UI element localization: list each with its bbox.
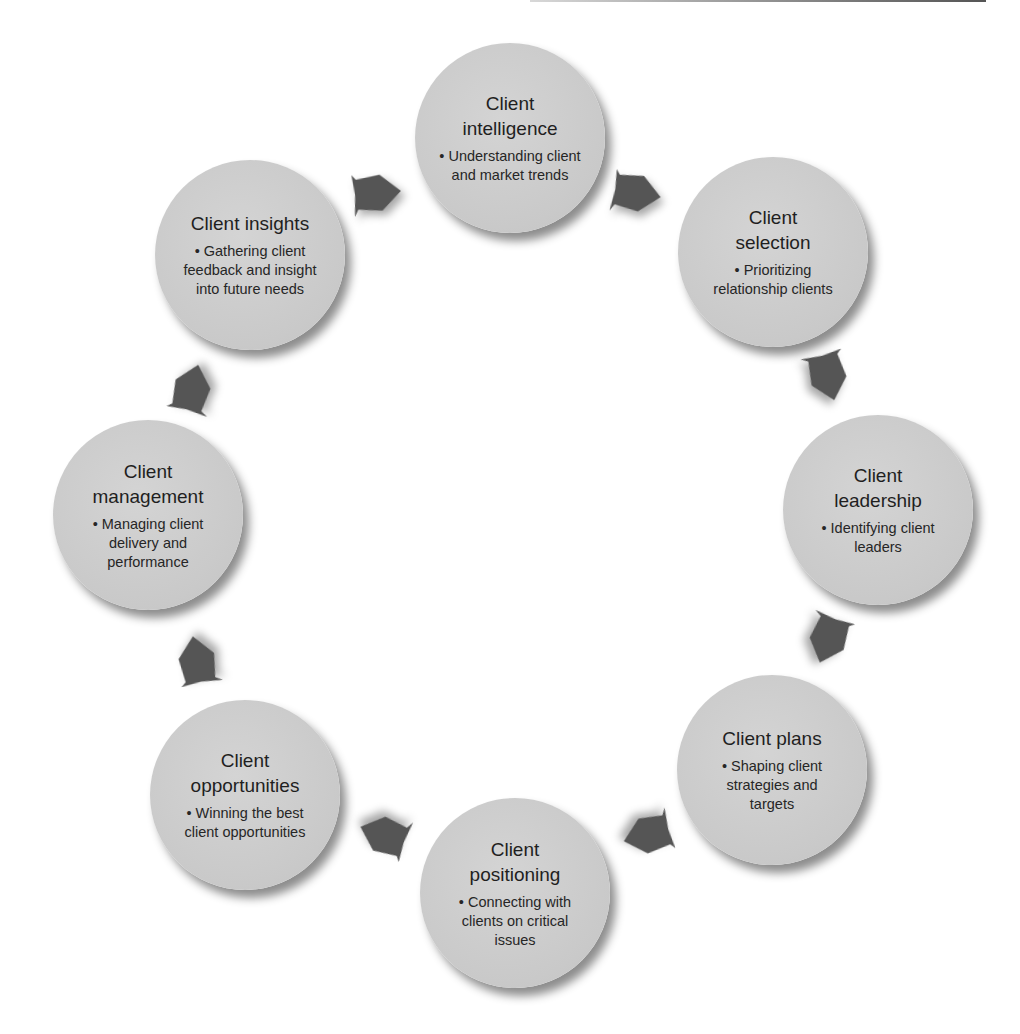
node-bullet: • Gathering client feedback and insight … <box>180 242 320 299</box>
node-title: Client leadership <box>818 463 938 513</box>
node-client-plans: Client plans • Shaping client strategies… <box>677 675 867 865</box>
arrow-intelligence-to-selection-icon <box>605 161 670 226</box>
arrow-insights-to-intelligence-icon <box>347 163 408 224</box>
node-bullet: • Prioritizing relationship clients <box>713 261 833 299</box>
node-bullet: • Understanding client and market trends <box>435 147 585 185</box>
node-client-selection: Client selection • Prioritizing relation… <box>678 157 868 347</box>
node-title: Client positioning <box>455 837 575 887</box>
node-bullet: • Managing client delivery and performan… <box>78 515 218 572</box>
arrow-management-to-insights-icon <box>158 354 227 423</box>
arrow-opportunities-to-management-icon <box>165 628 230 693</box>
node-bullet: • Identifying client leaders <box>803 519 953 557</box>
node-client-management: Client management • Managing client deli… <box>53 420 243 610</box>
node-client-opportunities: Client opportunities • Winning the best … <box>150 700 340 890</box>
node-title: Client opportunities <box>180 748 310 798</box>
node-title: Client selection <box>718 205 828 255</box>
node-title: Client insights <box>170 211 330 236</box>
node-bullet: • Shaping client strategies and targets <box>707 757 837 814</box>
top-rule <box>530 0 986 2</box>
arrow-selection-to-leadership-icon <box>794 343 863 412</box>
node-bullet: • Connecting with clients on critical is… <box>440 893 590 950</box>
arrow-plans-to-positioning-icon <box>613 801 682 870</box>
node-client-leadership: Client leadership • Identifying client l… <box>783 415 973 605</box>
node-title: Client plans <box>697 726 847 751</box>
node-client-positioning: Client positioning • Connecting with cli… <box>420 798 610 988</box>
node-title: Client intelligence <box>450 91 570 141</box>
node-client-intelligence: Client intelligence • Understanding clie… <box>415 43 605 233</box>
arrow-positioning-to-opportunities-icon <box>347 799 419 871</box>
arrow-leadership-to-plans-icon <box>792 604 864 676</box>
node-bullet: • Winning the best client opportunities <box>170 804 320 842</box>
node-title: Client management <box>83 459 213 509</box>
node-client-insights: Client insights • Gathering client feedb… <box>155 160 345 350</box>
